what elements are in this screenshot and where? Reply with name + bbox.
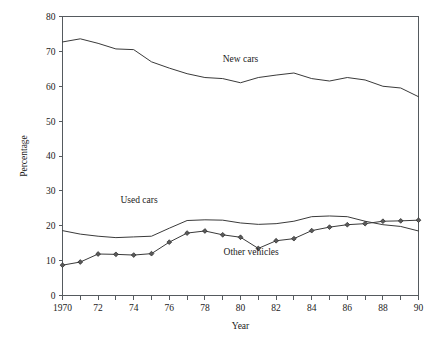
x-axis-tick-label: 88	[378, 303, 388, 313]
x-axis-tick-label: 90	[414, 303, 424, 313]
data-point-marker	[416, 218, 421, 223]
x-axis-tick-label: 82	[271, 303, 281, 313]
data-point-marker	[96, 252, 101, 257]
data-point-marker	[114, 252, 119, 257]
y-axis-tick-label: 50	[46, 117, 56, 127]
line-chart-plot: 0102030405060708019707274767880828486889…	[0, 0, 444, 342]
series-label-new-cars: New cars	[223, 54, 259, 64]
y-axis-tick-label: 70	[46, 47, 56, 57]
y-axis-tick-label: 30	[46, 186, 56, 196]
series-line-other-vehicles	[63, 220, 419, 265]
y-axis-tick-label: 80	[46, 12, 56, 22]
data-point-marker	[185, 231, 190, 236]
chart-figure: 0102030405060708019707274767880828486889…	[0, 0, 444, 342]
x-axis-tick-label: 86	[343, 303, 353, 313]
y-axis-title: Percentage	[19, 135, 29, 177]
y-axis-tick-label: 40	[46, 151, 56, 161]
data-point-marker	[309, 228, 314, 233]
data-point-marker	[381, 219, 386, 224]
x-axis-tick-label: 78	[200, 303, 210, 313]
x-axis-tick-label: 80	[236, 303, 246, 313]
data-point-marker	[220, 232, 225, 237]
y-axis-tick-label: 10	[46, 256, 56, 266]
data-point-marker	[327, 225, 332, 230]
series-label-other-vehicles: Other vehicles	[224, 247, 279, 257]
data-point-marker	[78, 260, 83, 265]
y-axis-tick-label: 0	[51, 291, 56, 301]
x-axis-tick-label: 74	[129, 303, 139, 313]
data-point-marker	[274, 238, 279, 243]
x-axis-tick-label: 72	[93, 303, 103, 313]
x-axis-tick-label: 1970	[53, 303, 72, 313]
data-point-marker	[60, 263, 65, 268]
series-label-used-cars: Used cars	[120, 195, 157, 205]
data-point-marker	[398, 218, 403, 223]
data-point-marker	[345, 222, 350, 227]
x-axis-tick-label: 76	[165, 303, 175, 313]
data-point-marker	[131, 253, 136, 258]
y-axis-tick-label: 20	[46, 221, 56, 231]
x-axis-title: Year	[232, 321, 250, 331]
series-line-new-cars	[63, 39, 419, 97]
data-point-marker	[292, 236, 297, 241]
x-axis-tick-label: 84	[307, 303, 317, 313]
y-axis-tick-label: 60	[46, 82, 56, 92]
data-point-marker	[238, 235, 243, 240]
data-point-marker	[203, 229, 208, 234]
